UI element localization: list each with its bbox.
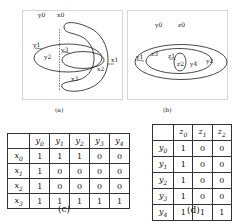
cell: 1 (30, 149, 50, 164)
caption-d: (d) (187, 205, 200, 215)
col-header: z0 (174, 125, 193, 141)
cell: 0 (212, 141, 231, 157)
cell: 0 (90, 179, 110, 194)
row-header: y0 (153, 141, 174, 157)
label-y4: y4 (189, 60, 197, 68)
cell: 1 (30, 179, 50, 194)
col-header: z2 (212, 125, 231, 141)
table-row: y3 1 0 0 (153, 189, 232, 205)
cell: 1 (30, 164, 50, 179)
table-row: x0 1 1 1 0 0 (8, 149, 130, 164)
label-y1: y1 (32, 41, 40, 49)
table-row: y2 1 0 0 (153, 173, 232, 189)
cell: 0 (110, 179, 130, 194)
label-x0: x0 (57, 11, 64, 18)
row-header: y4 (153, 205, 174, 221)
cell: 1 (174, 157, 193, 173)
cell: 0 (50, 179, 70, 194)
label-y1-b: y1 (135, 53, 143, 61)
label-y2-b: y2 (205, 57, 213, 65)
table-header-row: z0 z1 z2 (153, 125, 232, 141)
cell: 1 (70, 149, 90, 164)
row-header: x1 (8, 164, 30, 179)
y1-pointer-b (137, 60, 144, 61)
table-header-row: y0 y1 y2 y3 y4 (8, 134, 130, 149)
cell: 0 (212, 173, 231, 189)
label-y2: y2 (43, 53, 51, 61)
col-header: y1 (50, 134, 70, 149)
caption-a: (a) (55, 106, 63, 113)
table-row: y0 1 0 0 (153, 141, 232, 157)
label-z2: z2 (177, 60, 184, 67)
label-z0: z0 (178, 21, 185, 28)
cell: 0 (90, 164, 110, 179)
table-row: x1 1 0 0 0 0 (8, 164, 130, 179)
col-header: z1 (193, 125, 212, 141)
cell: 0 (110, 164, 130, 179)
cell: 0 (212, 157, 231, 173)
row-header: x2 (8, 179, 30, 194)
col-header: y2 (70, 134, 90, 149)
cell: 1 (174, 173, 193, 189)
caption-c: (c) (58, 204, 70, 214)
cell: 1 (90, 194, 110, 209)
label-z3: z3 (151, 50, 158, 57)
col-header: y3 (90, 134, 110, 149)
row-header: x0 (8, 149, 30, 164)
cell: 0 (70, 164, 90, 179)
y1-pointer (35, 48, 42, 49)
panel-b: y0 z0 y1 z3 z1 z2 y4 y2 (b) (128, 11, 228, 114)
cell: 0 (90, 149, 110, 164)
diagram-panels: y0 x0 y1 y2 y3 x1 x2 x3 (a) y0 z0 y1 z3 … (0, 0, 248, 120)
cell: 1 (174, 141, 193, 157)
label-z1: z1 (168, 52, 175, 59)
cell: 0 (70, 179, 90, 194)
cell: 0 (193, 141, 212, 157)
label-x2: x2 (97, 65, 104, 72)
caption-b: (b) (163, 106, 172, 113)
cell: 0 (110, 149, 130, 164)
table-row: x2 1 0 0 0 0 (8, 179, 130, 194)
label-y3: y3 (60, 46, 68, 54)
label-x3: x3 (71, 75, 78, 82)
corner-cell (8, 134, 30, 149)
cell: 1 (30, 194, 50, 209)
cell: 0 (193, 173, 212, 189)
col-header: y0 (30, 134, 50, 149)
table-row: y1 1 0 0 (153, 157, 232, 173)
incidence-table-c: y0 y1 y2 y3 y4 x0 1 1 1 0 0 x1 1 0 0 0 0… (7, 133, 130, 209)
cell: 0 (193, 157, 212, 173)
cell: 1 (50, 149, 70, 164)
row-header: y3 (153, 189, 174, 205)
cell: 1 (174, 189, 193, 205)
col-header: y4 (110, 134, 130, 149)
label-x1: x1 (111, 56, 118, 63)
corner-cell (153, 125, 174, 141)
cell: 1 (110, 194, 130, 209)
cell: 1 (70, 194, 90, 209)
cell: 0 (212, 189, 231, 205)
label-y0-b: y0 (154, 21, 162, 29)
cell: 0 (50, 164, 70, 179)
cell: 1 (212, 205, 231, 221)
row-header: y2 (153, 173, 174, 189)
label-y0: y0 (37, 11, 45, 19)
row-header: x3 (8, 194, 30, 209)
row-header: y1 (153, 157, 174, 173)
panel-a: y0 x0 y1 y2 y3 x1 x2 x3 (a) (23, 11, 123, 114)
cell: 0 (193, 189, 212, 205)
horseshoe-region-x (62, 23, 108, 92)
